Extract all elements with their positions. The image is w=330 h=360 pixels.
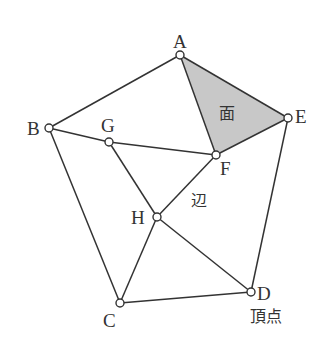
vertex-B <box>45 124 53 132</box>
edge-ED <box>251 118 288 292</box>
vertex-C <box>116 299 124 307</box>
label-G: G <box>101 115 115 136</box>
vertex-E <box>284 114 292 122</box>
edge-GF <box>109 142 216 155</box>
label-A: A <box>173 31 187 52</box>
vertex-H <box>153 213 161 221</box>
label-F: F <box>220 158 231 179</box>
edge-BG <box>49 128 109 142</box>
vertex-labels: A B C D E F G H <box>27 31 307 331</box>
edge-BC <box>49 128 120 303</box>
edge-HD <box>157 217 251 292</box>
vertex-D <box>247 288 255 296</box>
annotation-face: 面 <box>219 104 235 123</box>
label-H: H <box>131 207 145 228</box>
label-B: B <box>27 118 40 139</box>
vertex-F <box>212 151 220 159</box>
annotation-edge: 辺 <box>191 191 207 210</box>
vertices <box>45 51 292 307</box>
edge-FH <box>157 155 216 217</box>
label-C: C <box>103 310 116 331</box>
planar-graph-diagram: A B C D E F G H 面 辺 頂点 <box>0 0 330 360</box>
edges <box>49 55 288 303</box>
annotation-vertex: 頂点 <box>250 307 282 326</box>
edge-GH <box>109 142 157 217</box>
label-D: D <box>257 283 271 304</box>
vertex-G <box>105 138 113 146</box>
edge-HC <box>120 217 157 303</box>
vertex-A <box>176 51 184 59</box>
label-E: E <box>295 106 307 127</box>
edge-CD <box>120 292 251 303</box>
